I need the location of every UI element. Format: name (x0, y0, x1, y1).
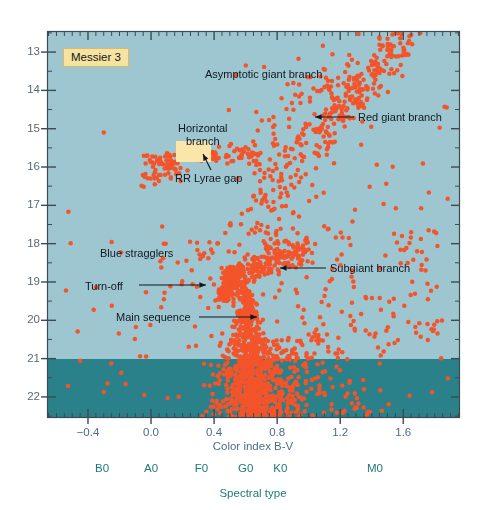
plot-area (47, 31, 460, 418)
x-axis-title: Color index B-V (173, 440, 333, 452)
spectral-type-axis-title: Spectral type (173, 487, 333, 499)
spectral-type-label-A0: A0 (131, 462, 171, 474)
y-tick-label-16: 16 (14, 160, 40, 172)
x-tick-label-3: 0.8 (257, 426, 297, 438)
y-tick-label-20: 20 (14, 313, 40, 325)
annotation-turn-off: Turn-off (85, 280, 123, 293)
annotation-subgiant-branch: Subgiant branch (330, 262, 410, 275)
y-tick-label-21: 21 (14, 352, 40, 364)
x-tick-label-5: 1.6 (383, 426, 423, 438)
annotation-main-sequence: Main sequence (116, 311, 191, 324)
y-tick-label-18: 18 (14, 237, 40, 249)
x-tick-label-4: 1.2 (320, 426, 360, 438)
spectral-type-label-F0: F0 (181, 462, 221, 474)
y-tick-label-22: 22 (14, 390, 40, 402)
annotation-horizontal-branch: Horizontalbranch (178, 122, 228, 148)
y-tick-label-14: 14 (14, 83, 40, 95)
y-tick-label-15: 15 (14, 122, 40, 134)
spectral-type-label-K0: K0 (260, 462, 300, 474)
x-tick-label-2: 0.4 (194, 426, 234, 438)
annotation-asymptotic-giant-branch: Asymptotic giant branch (205, 68, 322, 81)
color-magnitude-diagram-figure: 13141516171819202122−0.40.00.40.81.21.6B… (0, 0, 485, 510)
y-tick-label-19: 19 (14, 275, 40, 287)
x-tick-label-0: −0.4 (68, 426, 108, 438)
annotation-red-giant-branch: Red giant branch (358, 111, 442, 124)
annotation-rr-lyrae-gap: RR Lyrae gap (175, 172, 242, 185)
cluster-name-tag: Messier 3 (63, 48, 129, 67)
x-tick-label-1: 0.0 (131, 426, 171, 438)
spectral-type-label-M0: M0 (355, 462, 395, 474)
spectral-type-label-B0: B0 (82, 462, 122, 474)
annotation-arrows-overlay (47, 31, 460, 418)
annotation-blue-stragglers: Blue stragglers (100, 247, 173, 260)
arrow-rr-lyrae-gap (203, 154, 211, 170)
y-tick-label-17: 17 (14, 198, 40, 210)
y-tick-label-13: 13 (14, 45, 40, 57)
